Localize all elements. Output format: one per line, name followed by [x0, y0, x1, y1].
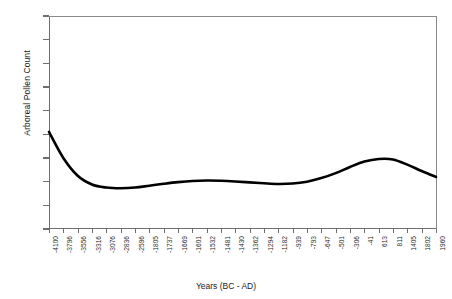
x-axis-title: Years (BC - AD)	[0, 281, 452, 291]
pollen-count-line	[0, 0, 452, 299]
chart-figure: Arboreal Pollen Count 010020030040050060…	[0, 0, 452, 299]
